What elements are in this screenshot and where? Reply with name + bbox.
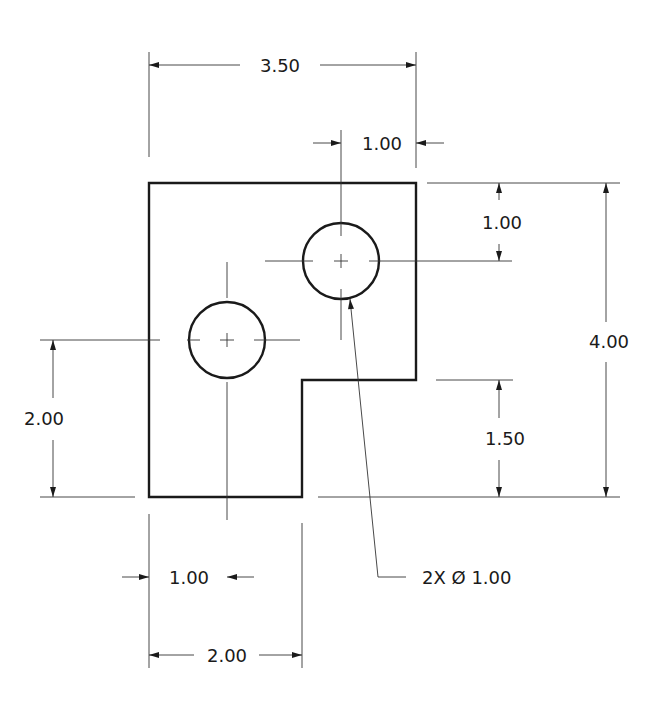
- svg-text:1.00: 1.00: [482, 212, 522, 233]
- svg-text:2X Ø 1.00: 2X Ø 1.00: [422, 567, 511, 588]
- svg-text:2.00: 2.00: [24, 408, 64, 429]
- dim-hole1-from-bottom: 2.00: [24, 340, 135, 497]
- dim-hole2-from-right: 1.00: [313, 133, 444, 154]
- svg-text:1.50: 1.50: [485, 428, 525, 449]
- dim-hole2-from-top: 1.00: [427, 183, 620, 261]
- svg-text:1.00: 1.00: [362, 133, 402, 154]
- svg-text:4.00: 4.00: [589, 331, 629, 352]
- hole-1: [40, 262, 300, 520]
- dim-notch-height: 1.50: [436, 380, 525, 497]
- technical-drawing: 3.50 1.00 1.00 4.00 1.50 2.00 1: [0, 0, 666, 717]
- svg-text:3.50: 3.50: [260, 55, 300, 76]
- svg-text:1.00: 1.00: [169, 567, 209, 588]
- svg-text:2.00: 2.00: [207, 645, 247, 666]
- dim-bottom-width: 2.00: [149, 645, 302, 666]
- hole-2: [265, 130, 512, 340]
